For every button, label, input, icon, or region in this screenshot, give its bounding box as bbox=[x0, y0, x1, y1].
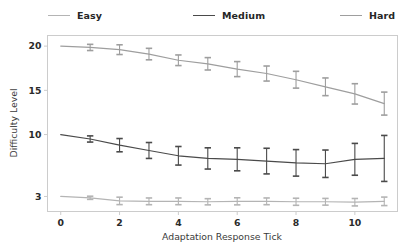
plot-border bbox=[48, 36, 398, 212]
series-easy bbox=[61, 196, 388, 206]
x-tick-label: 8 bbox=[293, 217, 299, 228]
chart-plot-area: 2015103 0246810 Difficulty Level Adaptat… bbox=[0, 0, 419, 247]
chart-figure: Easy Medium Hard 2015103 0246810 Difficu… bbox=[0, 0, 419, 247]
series-medium bbox=[61, 135, 388, 182]
y-tick-label: 15 bbox=[29, 85, 42, 96]
y-axis-ticks: 2015103 bbox=[29, 40, 48, 201]
x-tick-label: 10 bbox=[348, 217, 361, 228]
x-tick-label: 4 bbox=[175, 217, 182, 228]
series-line bbox=[61, 196, 385, 202]
x-axis-title: Adaptation Response Tick bbox=[162, 231, 282, 242]
series-hard bbox=[61, 44, 388, 115]
y-axis-title: Difficulty Level bbox=[8, 89, 19, 158]
error-bar bbox=[381, 92, 387, 115]
x-tick-label: 2 bbox=[116, 217, 122, 228]
y-tick-label: 10 bbox=[29, 129, 42, 140]
y-tick-label: 20 bbox=[29, 40, 42, 51]
series-line bbox=[61, 135, 385, 164]
x-tick-label: 0 bbox=[57, 217, 64, 228]
plot-frame bbox=[48, 36, 398, 212]
series-line bbox=[61, 46, 385, 103]
x-tick-label: 6 bbox=[234, 217, 240, 228]
y-tick-label: 3 bbox=[35, 191, 41, 202]
x-axis-ticks: 0246810 bbox=[57, 212, 361, 228]
series-layer bbox=[61, 44, 388, 206]
